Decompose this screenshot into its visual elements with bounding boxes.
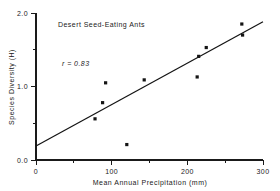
x-tick-label: 0: [34, 168, 38, 175]
x-axis-ticks: [36, 160, 263, 165]
x-tick-label: 100: [105, 168, 118, 175]
data-point: [101, 101, 104, 104]
data-point-group: [93, 22, 244, 146]
scatter-plot-canvas: 0100200300 0.01.02.0 Desert Seed-Eating …: [0, 0, 280, 191]
chart-figure: 0100200300 0.01.02.0 Desert Seed-Eating …: [0, 0, 280, 191]
data-point: [197, 55, 200, 58]
data-point: [205, 46, 208, 49]
y-axis-tick-labels: 0.01.02.0: [17, 10, 28, 164]
data-point: [241, 33, 244, 36]
y-axis-ticks: [31, 13, 36, 160]
data-point: [104, 81, 107, 84]
data-point: [143, 78, 146, 81]
data-point: [93, 117, 96, 120]
correlation-annotation: r = 0.83: [62, 60, 90, 67]
y-tick-label: 0.0: [17, 157, 28, 164]
y-axis-title: Species Diversity (H): [8, 49, 16, 125]
chart-title: Desert Seed-Eating Ants: [58, 21, 145, 29]
x-axis-title: Mean Annual Precipitation (mm): [93, 179, 208, 187]
data-point: [240, 22, 243, 25]
y-tick-label: 1.0: [17, 83, 28, 90]
data-point: [125, 143, 128, 146]
x-axis-tick-labels: 0100200300: [34, 168, 270, 175]
x-tick-label: 300: [257, 168, 270, 175]
x-tick-label: 200: [181, 168, 194, 175]
regression-line: [36, 22, 263, 146]
data-point: [196, 75, 199, 78]
y-tick-label: 2.0: [17, 10, 28, 17]
